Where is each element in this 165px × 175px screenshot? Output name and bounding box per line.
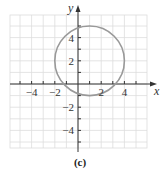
- y-tick-label: −2: [62, 101, 74, 113]
- x-tick-label: −4: [26, 86, 38, 98]
- y-axis-label: y: [67, 1, 74, 15]
- y-tick-label: −4: [62, 124, 74, 136]
- y-tick-label: 4: [69, 32, 75, 44]
- figure-caption: (c): [74, 156, 87, 169]
- circle-graph: −4−22442−2−4 x y (c): [0, 0, 165, 175]
- y-tick-label: 2: [69, 55, 75, 67]
- x-tick-label: 2: [98, 86, 104, 98]
- x-axis-label: x: [153, 84, 160, 98]
- x-tick-label: −2: [49, 86, 61, 98]
- y-axis-arrow-icon: [76, 5, 81, 12]
- x-tick-label: 4: [122, 86, 128, 98]
